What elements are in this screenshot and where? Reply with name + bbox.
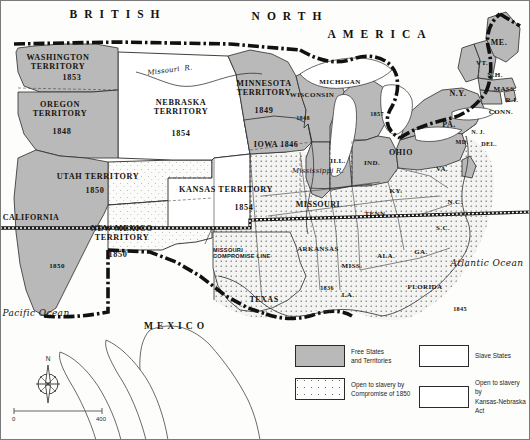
historical-map: BRITISH NORTH AMERICA MEXICO Pacific Oce…	[0, 0, 530, 440]
legend-label-kansas-nebraska: Open to slavery by Kansas-Nebraska Act	[475, 378, 527, 415]
legend-label-free-states: Free States and Territories	[351, 347, 391, 366]
legend-swatch-slave-states	[419, 345, 469, 367]
legend-item-slave-states: Slave States	[419, 345, 511, 367]
scale-min-label: 0	[12, 416, 15, 422]
compass-rose: N	[28, 356, 68, 404]
compass-graphic	[28, 356, 68, 404]
legend-item-kansas-nebraska: Open to slavery by Kansas-Nebraska Act	[419, 378, 527, 415]
iowa-shape	[244, 116, 312, 154]
scale-bar-graphic	[10, 407, 108, 419]
legend-swatch-free-states	[295, 345, 345, 367]
washington-territory-shape	[16, 44, 118, 92]
compass-north-label: N	[46, 355, 51, 362]
legend-item-compromise-1850: Open to slavery by Compromise of 1850	[295, 378, 410, 400]
map-legend: Free States and Territories Slave States…	[295, 345, 527, 407]
legend-swatch-compromise-1850	[295, 378, 345, 400]
legend-item-free-states: Free States and Territories	[295, 345, 391, 367]
nebraska-territory-fill	[118, 52, 250, 160]
legend-label-compromise-1850: Open to slavery by Compromise of 1850	[351, 380, 410, 399]
legend-label-slave-states: Slave States	[475, 351, 511, 360]
rhode-island-shape	[504, 90, 516, 102]
scale-max-label: 400	[96, 416, 106, 422]
scale-bar: 0 400	[10, 405, 108, 427]
legend-swatch-kansas-nebraska	[419, 386, 469, 408]
